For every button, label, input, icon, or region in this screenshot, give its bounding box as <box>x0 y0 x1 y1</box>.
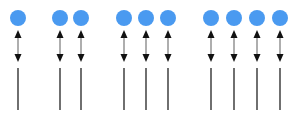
unit <box>203 10 219 110</box>
double-arrow-icon <box>254 30 261 62</box>
double-arrow-icon <box>121 30 128 62</box>
group-3 <box>116 10 176 110</box>
unit <box>272 10 288 110</box>
blue-circle <box>116 10 132 26</box>
blue-circle <box>249 10 265 26</box>
group-4 <box>203 10 288 110</box>
unit <box>249 10 265 110</box>
unit <box>160 10 176 110</box>
unit <box>52 10 68 110</box>
unit <box>73 10 89 110</box>
unit <box>226 10 242 110</box>
double-arrow-icon <box>15 30 22 62</box>
blue-circle <box>138 10 154 26</box>
blue-circle <box>272 10 288 26</box>
double-arrow-icon <box>57 30 64 62</box>
blue-circle <box>52 10 68 26</box>
blue-circle <box>203 10 219 26</box>
double-arrow-icon <box>165 30 172 62</box>
blue-circle <box>10 10 26 26</box>
circle-arrow-line-diagram <box>0 0 295 117</box>
unit <box>138 10 154 110</box>
blue-circle <box>160 10 176 26</box>
double-arrow-icon <box>231 30 238 62</box>
double-arrow-icon <box>208 30 215 62</box>
diagram-canvas <box>0 0 295 117</box>
blue-circle <box>73 10 89 26</box>
double-arrow-icon <box>143 30 150 62</box>
group-1 <box>10 10 26 110</box>
unit <box>116 10 132 110</box>
double-arrow-icon <box>78 30 85 62</box>
blue-circle <box>226 10 242 26</box>
group-2 <box>52 10 89 110</box>
unit <box>10 10 26 110</box>
double-arrow-icon <box>277 30 284 62</box>
